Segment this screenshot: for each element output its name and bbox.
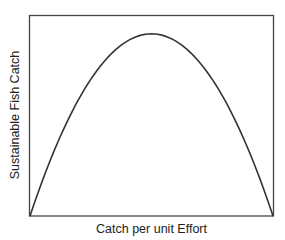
- plot-frame: [30, 16, 274, 217]
- x-axis-label: Catch per unit Effort: [29, 222, 274, 236]
- y-axis-label: Sustainable Fish Catch: [8, 51, 22, 180]
- catch-curve: [30, 34, 273, 216]
- chart-canvas: [0, 0, 285, 240]
